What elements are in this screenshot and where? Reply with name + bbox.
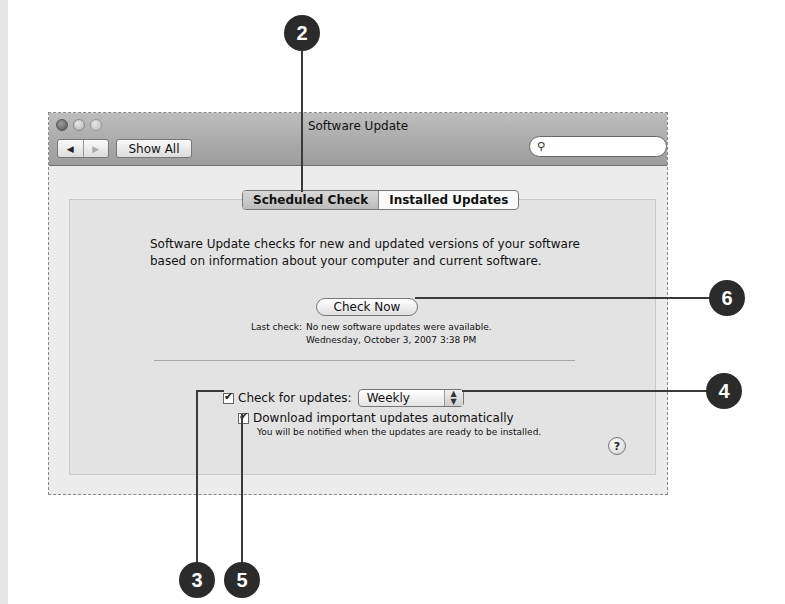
- callout-3: 3: [179, 562, 215, 598]
- back-button[interactable]: ◀: [58, 140, 83, 157]
- callout-6-line: [415, 297, 710, 299]
- software-update-window: Software Update ◀ ▶ Show All ⚲ Scheduled…: [48, 112, 668, 495]
- scheduled-check-panel: Software Update checks for new and updat…: [69, 199, 656, 475]
- check-for-updates-row: Check for updates: Weekly ▲▼: [223, 389, 464, 407]
- callout-3-line-horizontal: [196, 390, 224, 392]
- last-check-label: Last check:: [251, 321, 302, 347]
- download-automatically-row: Download important updates automatically: [238, 411, 514, 425]
- tab-bar: Scheduled Check Installed Updates: [242, 190, 519, 210]
- notification-note: You will be notified when the updates ar…: [257, 427, 541, 437]
- frequency-popup[interactable]: Weekly ▲▼: [358, 389, 464, 407]
- callout-5: 5: [224, 562, 260, 598]
- callout-2: 2: [284, 15, 320, 51]
- forward-button[interactable]: ▶: [83, 140, 109, 157]
- callout-4: 4: [706, 373, 742, 409]
- window-title: Software Update: [49, 119, 667, 133]
- last-check-date: Wednesday, October 3, 2007 3:38 PM: [306, 334, 492, 347]
- section-divider: [154, 360, 575, 361]
- search-input[interactable]: ⚲: [529, 136, 667, 157]
- check-for-updates-label: Check for updates:: [238, 391, 352, 405]
- callout-5-line: [241, 414, 243, 564]
- last-check-status: No new software updates were available.: [306, 321, 492, 334]
- last-check-info: Last check: No new software updates were…: [251, 321, 492, 347]
- show-all-button[interactable]: Show All: [116, 139, 192, 158]
- frequency-value: Weekly: [367, 391, 410, 405]
- check-now-button[interactable]: Check Now: [316, 298, 418, 316]
- callout-6: 6: [709, 280, 745, 316]
- callout-3-line-vertical: [196, 390, 198, 565]
- download-automatically-label: Download important updates automatically: [253, 411, 514, 425]
- callout-4-line: [462, 390, 707, 392]
- page-margin-strip: [0, 0, 8, 604]
- check-for-updates-checkbox[interactable]: [223, 393, 234, 404]
- download-automatically-checkbox[interactable]: [238, 413, 249, 424]
- window-toolbar: Software Update ◀ ▶ Show All ⚲: [49, 113, 667, 166]
- popup-arrows-icon: ▲▼: [444, 390, 463, 406]
- tab-scheduled-check[interactable]: Scheduled Check: [243, 191, 379, 209]
- callout-2-line: [301, 50, 303, 192]
- search-icon: ⚲: [537, 140, 545, 153]
- description-text: Software Update checks for new and updat…: [150, 236, 610, 270]
- tab-installed-updates[interactable]: Installed Updates: [379, 191, 518, 209]
- nav-buttons: ◀ ▶: [57, 139, 109, 158]
- help-button[interactable]: ?: [608, 437, 626, 455]
